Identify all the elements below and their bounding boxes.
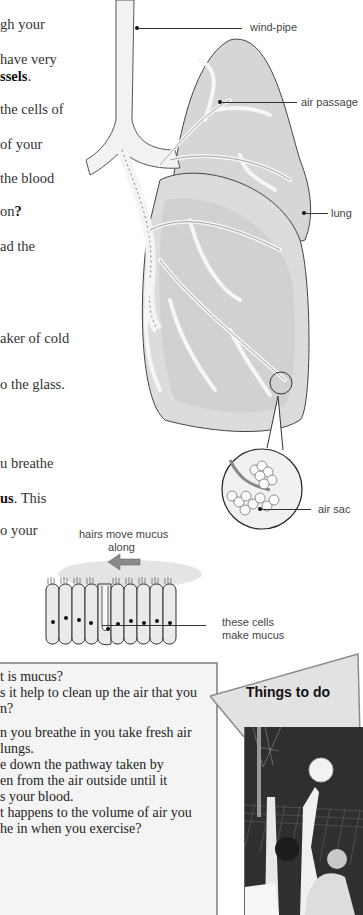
air-passage-leader [221,102,297,103]
mucus-cells-diagram [40,550,240,660]
things-to-do-label: Things to do [246,684,330,700]
question-line: t is mucus? [0,669,63,685]
mucus-cells-label: these cells make mucus [222,616,284,642]
mucus-cells-leader [102,625,206,626]
question-line: he in when you exercise? [0,821,142,837]
question-line: e down the pathway taken by [0,757,164,773]
question-line: s your blood. [0,789,74,805]
question-line: n you breathe in you take fresh air [0,725,192,741]
lung-label: lung [331,207,352,220]
wind-pipe-leader [138,28,242,29]
air-sac-label: air sac [318,503,350,516]
air-sac-leader [261,509,311,510]
air-passage-label: air passage [301,96,358,109]
lung-diagram [0,0,363,560]
question-line: n? [0,701,13,717]
question-line: en from the air outside until it [0,773,167,789]
question-line: lungs. [0,741,34,757]
question-line: t happens to the volume of air you [0,805,192,821]
questions-panel: t is mucus? s it help to clean up the ai… [0,662,218,915]
question-line: s it help to clean up the air that you [0,685,197,701]
netball-photo [244,727,363,915]
wind-pipe-label: wind-pipe [250,21,297,34]
lung-leader [305,213,328,214]
